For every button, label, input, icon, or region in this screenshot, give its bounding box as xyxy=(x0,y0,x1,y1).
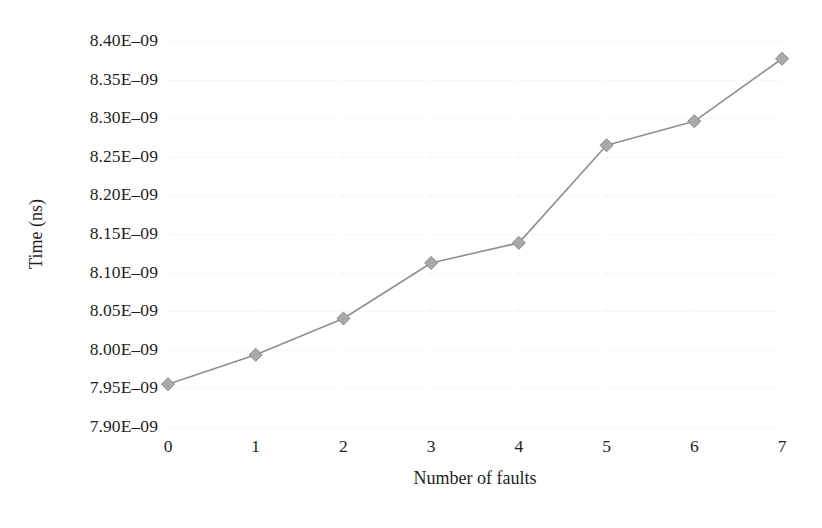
x-axis-tick-label: 3 xyxy=(411,438,451,456)
series-layer xyxy=(168,41,782,427)
data-point-marker xyxy=(162,378,175,391)
x-axis-tick-label: 1 xyxy=(236,438,276,456)
gridline-horizontal xyxy=(168,427,782,428)
y-axis-title: Time (ns) xyxy=(26,41,54,427)
x-axis-tick-label: 0 xyxy=(148,438,188,456)
series-line xyxy=(168,59,782,384)
plot-area xyxy=(168,41,782,427)
data-point-marker xyxy=(776,52,789,65)
data-point-marker xyxy=(249,348,262,361)
data-point-marker xyxy=(688,115,701,128)
x-axis-tick-label: 2 xyxy=(323,438,363,456)
gridline-vertical xyxy=(782,41,783,427)
x-axis-title: Number of faults xyxy=(168,468,782,489)
x-axis-tick-label: 6 xyxy=(674,438,714,456)
data-point-marker xyxy=(337,312,350,325)
x-axis-tick-label: 7 xyxy=(762,438,802,456)
x-axis-tick-label: 4 xyxy=(499,438,539,456)
chart-figure: 7.90E–097.95E–098.00E–098.05E–098.10E–09… xyxy=(0,0,822,528)
data-point-marker xyxy=(425,256,438,269)
x-axis-tick-label: 5 xyxy=(587,438,627,456)
